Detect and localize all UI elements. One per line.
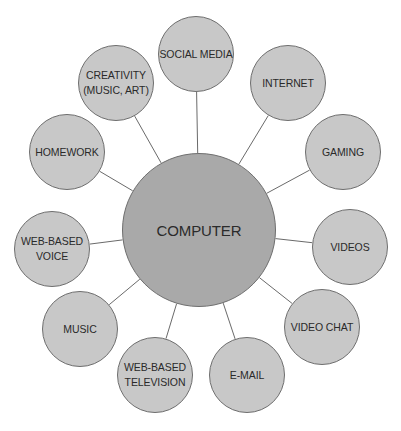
node-homework: HOMEWORK [29,114,105,190]
connector-e-mail [223,303,235,339]
connector-web-based-television [166,304,177,339]
connector-video-chat [260,278,293,304]
connector-gaming [267,170,310,193]
node-video-chat: VIDEO CHAT [284,289,360,365]
node-creativity: CREATIVITY (MUSIC, ART) [78,45,154,121]
connector-videos [276,239,313,243]
computer-uses-mind-map: COMPUTER SOCIAL MEDIAINTERNETGAMINGVIDEO… [0,0,401,431]
connector-internet [239,116,268,165]
connector-web-based-voice [90,240,123,244]
center-node-computer: COMPUTER [122,153,276,307]
node-gaming: GAMING [305,114,381,190]
connector-music [109,279,140,305]
node-e-mail: E-MAIL [209,337,285,413]
node-music: MUSIC [42,291,118,367]
node-web-based-television: WEB-BASED TELEVISION [117,337,193,413]
node-videos: VIDEOS [312,209,388,285]
node-web-based-voice: WEB-BASED VOICE [14,211,90,287]
connector-social-media [197,92,198,153]
connector-homework [100,171,133,191]
connector-creativity [135,116,161,163]
node-social-media: SOCIAL MEDIA [158,16,234,92]
node-internet: INTERNET [250,45,326,121]
